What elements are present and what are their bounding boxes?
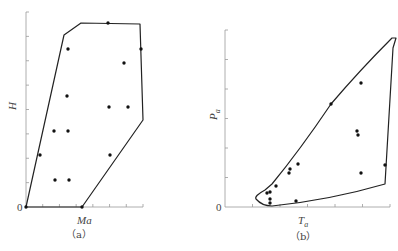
b-x-label: Ta [298, 214, 308, 229]
a-data-point [80, 205, 83, 208]
a-data-point [52, 129, 55, 132]
b-data-point [274, 184, 277, 187]
b-data-point [359, 81, 362, 84]
figure: H 0 Ma （a） Pa 0 Ta （b） [0, 0, 398, 251]
a-data-point [65, 94, 68, 97]
a-boundary-polygon [26, 23, 143, 207]
b-y-label: Pa [207, 109, 222, 121]
a-origin-label: 0 [17, 201, 23, 213]
a-data-point [107, 105, 110, 108]
b-data-point [287, 171, 290, 174]
a-data-point [66, 47, 69, 50]
a-data-point [24, 205, 27, 208]
b-data-point [296, 162, 299, 165]
panel-b: Pa 0 Ta （b） [207, 30, 396, 242]
b-y-ticks [225, 30, 228, 178]
b-data-point [268, 190, 271, 193]
b-caption: （b） [290, 231, 316, 242]
a-data-point [139, 47, 142, 50]
a-data-point [67, 178, 70, 181]
b-data-point [383, 163, 386, 166]
a-y-ticks [26, 12, 29, 183]
b-data-point [329, 102, 332, 105]
b-data-point [288, 167, 291, 170]
b-data-point [359, 171, 362, 174]
a-data-point [66, 129, 69, 132]
b-data-point [356, 133, 359, 136]
b-boundary-curve [256, 38, 396, 206]
a-data-point [53, 178, 56, 181]
a-x-label: Ma [76, 214, 92, 226]
b-data-point [294, 199, 297, 202]
a-data-point [38, 153, 41, 156]
b-data-point [268, 197, 271, 200]
a-caption: （a） [66, 229, 92, 240]
a-data-point [108, 153, 111, 156]
a-y-label: H [6, 101, 18, 111]
b-data-point [265, 191, 268, 194]
b-origin-label: 0 [216, 201, 222, 213]
a-data-point [122, 61, 125, 64]
a-data-points [24, 21, 142, 208]
b-data-point [268, 201, 271, 204]
a-data-point [126, 105, 129, 108]
a-data-point [106, 21, 109, 24]
b-data-points [265, 81, 386, 204]
b-data-point [355, 129, 358, 132]
panel-a: H 0 Ma （a） [6, 12, 143, 240]
